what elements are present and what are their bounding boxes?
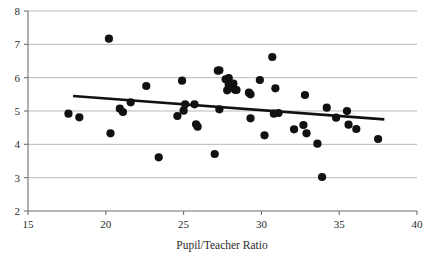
data-point <box>323 104 331 112</box>
data-point <box>178 77 186 85</box>
data-point <box>246 90 254 98</box>
y-tick-label: 3 <box>15 172 21 184</box>
data-point <box>106 129 114 137</box>
x-tick-labels-group: 152025303540 <box>23 218 424 230</box>
data-point <box>343 107 351 115</box>
data-point <box>119 108 127 116</box>
data-point <box>301 91 309 99</box>
data-point <box>352 125 360 133</box>
x-tick-label: 25 <box>178 218 190 230</box>
y-tick-label: 5 <box>15 105 21 117</box>
data-point <box>211 150 219 158</box>
x-tick-label: 15 <box>23 218 35 230</box>
data-point <box>318 173 326 181</box>
x-tick-marks-group <box>28 211 417 215</box>
data-point <box>194 123 202 131</box>
data-point <box>313 140 321 148</box>
data-point <box>64 110 72 118</box>
y-tick-label: 7 <box>15 38 21 50</box>
gridlines-group <box>28 11 417 178</box>
y-tick-label: 4 <box>15 138 21 150</box>
y-tick-label: 2 <box>15 205 21 217</box>
data-point <box>173 112 181 120</box>
data-point <box>302 129 310 137</box>
data-point <box>260 131 268 139</box>
data-point <box>155 153 163 161</box>
y-tick-label: 8 <box>15 5 21 17</box>
x-axis-title: Pupil/Teacher Ratio <box>176 239 268 252</box>
data-point <box>256 76 264 84</box>
x-tick-label: 40 <box>412 218 424 230</box>
scatter-plot-figure: 2345678 152025303540 Pupil/Teacher Ratio <box>0 0 429 267</box>
plot-canvas: 2345678 152025303540 Pupil/Teacher Ratio <box>0 0 429 267</box>
data-point <box>246 114 254 122</box>
y-tick-labels-group: 2345678 <box>15 5 21 217</box>
data-point <box>374 135 382 143</box>
data-point <box>232 86 240 94</box>
x-tick-label: 35 <box>334 218 346 230</box>
data-point <box>271 84 279 92</box>
data-point <box>142 82 150 90</box>
x-tick-label: 30 <box>256 218 268 230</box>
data-point <box>75 113 83 121</box>
data-point <box>290 125 298 133</box>
data-point <box>344 121 352 129</box>
data-point <box>105 35 113 43</box>
y-tick-label: 6 <box>15 72 21 84</box>
data-point <box>215 66 223 74</box>
y-tick-marks-group <box>24 11 28 211</box>
data-point <box>299 121 307 129</box>
x-tick-label: 20 <box>100 218 112 230</box>
data-point <box>268 53 276 61</box>
